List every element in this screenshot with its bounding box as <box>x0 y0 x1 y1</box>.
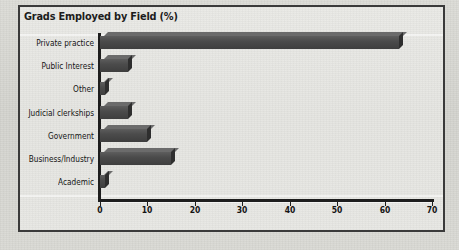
bar-6 <box>100 175 105 188</box>
bar-front-face <box>100 129 147 142</box>
category-label-4: Government <box>16 131 94 141</box>
category-label-text: Public Interest <box>24 61 94 71</box>
bar-front-face <box>100 36 399 49</box>
category-label-text: Private practice <box>24 38 94 48</box>
category-label-5: Business/Industry <box>16 154 94 164</box>
category-label-text: Other <box>24 84 94 94</box>
category-label-text: Judicial clerkships <box>24 108 94 118</box>
x-tick-label-0: 0 <box>97 205 102 215</box>
chart-title: Grads Employed by Field (%) <box>24 10 178 22</box>
category-label-2: Other <box>16 84 94 94</box>
bar-1 <box>100 59 128 72</box>
x-tick-label-1: 10 <box>142 205 153 215</box>
category-label-0: Private practice <box>16 38 94 48</box>
category-label-3: Judicial clerkships <box>16 108 94 118</box>
category-label-text: Government <box>24 131 94 141</box>
x-tick-label-3: 30 <box>237 205 248 215</box>
bar-front-face <box>100 82 105 95</box>
bar-2 <box>100 82 105 95</box>
category-label-1: Public Interest <box>16 61 94 71</box>
category-label-text: Academic <box>24 177 94 187</box>
x-tick-label-6: 60 <box>379 205 390 215</box>
x-tick-label-4: 40 <box>284 205 295 215</box>
bar-5 <box>100 152 171 165</box>
bar-front-face <box>100 106 128 119</box>
x-tick-label-7: 70 <box>427 205 438 215</box>
bar-3 <box>100 106 128 119</box>
bar-front-face <box>100 175 105 188</box>
bar-0 <box>100 36 399 49</box>
bar-4 <box>100 129 147 142</box>
x-tick-label-2: 20 <box>190 205 201 215</box>
scan-artifact-band <box>20 195 443 197</box>
category-label-text: Business/Industry <box>24 154 94 164</box>
bar-front-face <box>100 59 128 72</box>
x-tick-label-5: 50 <box>332 205 343 215</box>
bar-front-face <box>100 152 171 165</box>
category-label-6: Academic <box>16 177 94 187</box>
